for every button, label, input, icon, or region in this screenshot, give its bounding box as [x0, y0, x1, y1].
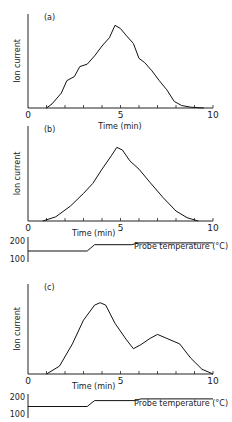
temp-label: Probe temperature (°C): [134, 399, 228, 408]
panel-label: (a): [44, 13, 55, 22]
x-axis-label: Time (min): [71, 229, 115, 238]
y-axis-label: Ion current: [13, 39, 22, 83]
x-tick-label: 5: [118, 376, 124, 386]
x-tick-label: 10: [207, 376, 219, 386]
temp-tick-200: 200: [10, 237, 25, 246]
y-axis-label: Ion current: [13, 152, 22, 196]
x-tick-label: 5: [118, 110, 124, 120]
x-tick-label: 10: [207, 223, 219, 233]
x-tick-label: 0: [25, 110, 31, 120]
x-tick-label: 10: [207, 110, 219, 120]
figure: 0510(a)Ion currentTime (min)0510(b)Ion c…: [0, 0, 232, 422]
temp-tick-100: 100: [10, 410, 25, 419]
y-axis-label: Ion current: [13, 307, 22, 351]
x-axis-label: Time (min): [97, 122, 141, 131]
temp-tick-100: 100: [10, 255, 25, 264]
x-axis-label: Time (min): [71, 382, 115, 391]
temp-tick-200: 200: [10, 393, 25, 402]
ion-current-curve: [47, 303, 214, 374]
x-tick-label: 0: [25, 376, 31, 386]
panel-label: (c): [44, 283, 55, 292]
panel-label: (b): [44, 125, 55, 134]
x-tick-label: 0: [25, 223, 31, 233]
x-tick-label: 5: [118, 223, 124, 233]
temp-label: Probe temperature (°C): [134, 242, 228, 251]
ion-current-curve: [43, 147, 198, 221]
ion-current-curve: [47, 25, 204, 108]
